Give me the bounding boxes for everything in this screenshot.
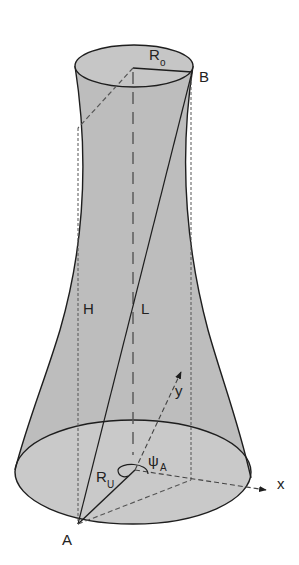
label-bottom-radius: R	[96, 468, 107, 485]
label-point-b: B	[199, 68, 209, 85]
top-ellipse	[75, 45, 193, 87]
label-angle: ψ	[148, 452, 159, 469]
label-bottom-radius-sub: U	[107, 479, 114, 490]
hyperboloid-diagram: R o B H L y x ψ A R U A	[0, 0, 299, 565]
label-top-radius-sub: o	[160, 57, 166, 68]
label-point-a: A	[62, 531, 72, 548]
label-length: L	[141, 300, 149, 317]
label-x-axis: x	[277, 475, 285, 492]
label-top-radius: R	[149, 46, 160, 63]
label-angle-sub: A	[160, 462, 167, 473]
label-y-axis: y	[175, 382, 183, 399]
label-height: H	[83, 300, 94, 317]
